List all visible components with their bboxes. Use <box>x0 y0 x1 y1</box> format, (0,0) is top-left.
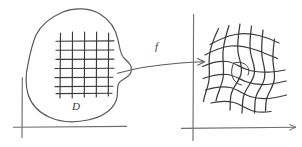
map-label: f <box>155 40 158 52</box>
distorted-grid-line-horizontal <box>211 101 271 112</box>
math-diagram-figure: D f <box>0 0 302 147</box>
domain-label: D <box>72 100 80 112</box>
distorted-grid-line-horizontal <box>210 34 279 45</box>
distorted-grid <box>203 24 287 113</box>
grid-line-vertical <box>60 33 61 98</box>
distorted-grid-line-horizontal <box>205 46 278 59</box>
distorted-grid-line-vertical <box>266 39 275 111</box>
left-horizontal-axis <box>14 126 127 127</box>
diagram-canvas <box>0 0 302 147</box>
right-vertical-axis <box>193 15 194 141</box>
mapping-arrow-shaft <box>118 62 204 73</box>
regular-grid <box>55 32 114 98</box>
right-horizontal-axis <box>182 127 296 128</box>
